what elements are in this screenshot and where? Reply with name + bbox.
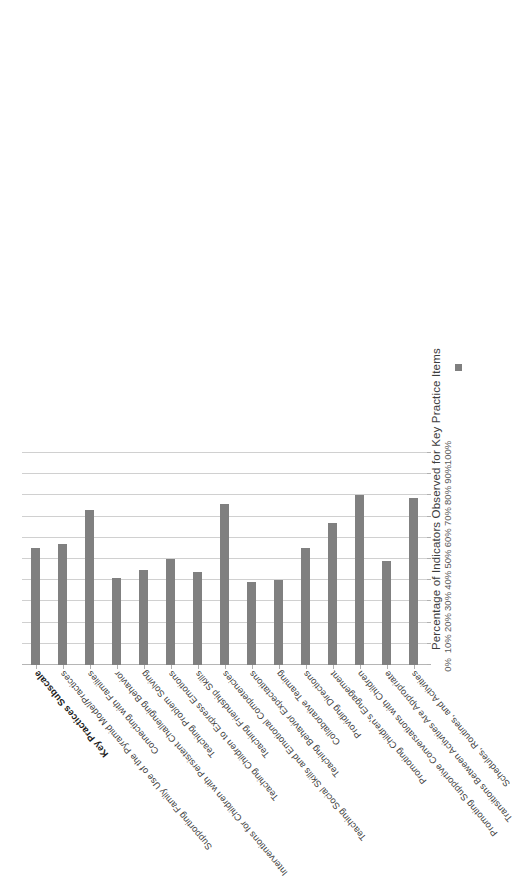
category-label: Teaching Children to Express Emotions — [166, 669, 280, 803]
x-axis-tick — [427, 516, 431, 517]
x-axis-tick-label: 40% — [442, 571, 453, 590]
gridline — [22, 452, 427, 453]
category-tick — [36, 665, 37, 669]
x-axis-tick — [427, 579, 431, 580]
x-axis-tick-label: 20% — [442, 613, 453, 632]
category-tick — [198, 665, 199, 669]
x-axis-tick — [427, 664, 431, 665]
category-tick — [387, 665, 388, 669]
category-label: Teaching Behavior Expectations — [247, 669, 342, 779]
x-axis-tick-label: 30% — [442, 592, 453, 611]
category-tick — [414, 665, 415, 669]
category-tick — [117, 665, 118, 669]
x-axis-tick — [427, 537, 431, 538]
bar[interactable] — [220, 504, 229, 665]
category-label: Promoting Supportive Conversations with … — [355, 669, 499, 838]
category-tick — [144, 665, 145, 669]
category-label: Connecting with Families — [85, 669, 161, 756]
x-axis-tick — [427, 643, 431, 644]
category-tick — [63, 665, 64, 669]
bar[interactable] — [247, 582, 256, 665]
bar[interactable] — [112, 578, 121, 665]
x-axis-tick — [427, 600, 431, 601]
x-axis-tick-label: 90% — [442, 465, 453, 484]
x-axis-tick — [427, 473, 431, 474]
category-label: Teaching Problem Solving — [139, 669, 217, 760]
category-tick — [306, 665, 307, 669]
bar[interactable] — [58, 544, 67, 665]
x-axis-tick — [427, 494, 431, 495]
category-label: Interventions for Children with Persiste… — [112, 669, 289, 878]
bar[interactable] — [409, 498, 418, 665]
bar[interactable] — [85, 510, 94, 665]
x-axis-tick — [427, 452, 431, 453]
x-axis-tick-label: 0% — [442, 658, 453, 672]
category-tick — [225, 665, 226, 669]
x-axis-tick-label: 80% — [442, 486, 453, 505]
category-label: Providing Directions — [301, 669, 363, 740]
bar[interactable] — [274, 580, 283, 665]
category-label: Schedules, Routines, and Activities — [409, 669, 512, 789]
category-label: Collaborative Teaming — [274, 669, 342, 747]
bar[interactable] — [355, 495, 364, 665]
category-label: Promoting Children's Engagement — [328, 669, 428, 786]
legend-swatch — [455, 364, 462, 371]
category-label: Supporting Family Use of the Pyramid Mod… — [58, 669, 214, 852]
category-tick — [279, 665, 280, 669]
category-label: Teaching Friendship Skills — [193, 669, 271, 760]
x-axis-tick — [427, 558, 431, 559]
gridline — [22, 494, 427, 495]
bar[interactable] — [301, 548, 310, 665]
x-axis-tick-label: 100% — [442, 441, 453, 465]
gridline — [22, 473, 427, 474]
category-tick — [333, 665, 334, 669]
category-tick — [360, 665, 361, 669]
category-tick — [252, 665, 253, 669]
category-label: Key Practices Subscale — [31, 668, 110, 759]
y-axis-title: Percentage of Indicators Observed for Ke… — [430, 90, 442, 650]
chart-legend — [455, 351, 467, 371]
category-label: Transitions Between Activities Are Appro… — [382, 669, 514, 824]
category-tick — [171, 665, 172, 669]
x-axis-tick-label: 10% — [442, 634, 453, 653]
bar[interactable] — [382, 561, 391, 665]
x-axis-tick-label: 60% — [442, 528, 453, 547]
category-label: Teaching Social Skills and Emotional Com… — [220, 669, 368, 843]
x-axis-tick — [427, 622, 431, 623]
bar[interactable] — [31, 548, 40, 665]
bar[interactable] — [193, 572, 202, 665]
x-axis-tick-label: 70% — [442, 507, 453, 526]
bar[interactable] — [139, 570, 148, 665]
x-axis-tick-label: 50% — [442, 549, 453, 568]
category-tick — [90, 665, 91, 669]
plot-area: 0%10%20%30%40%50%60%70%80%90%100% — [22, 453, 427, 665]
bar[interactable] — [328, 523, 337, 665]
bar[interactable] — [166, 559, 175, 665]
